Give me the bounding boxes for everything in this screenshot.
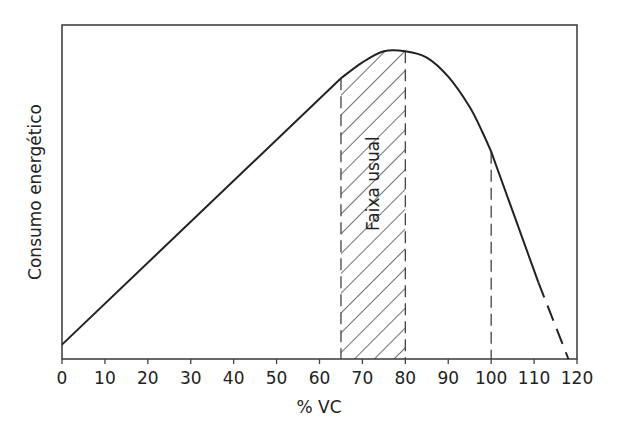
x-tick-label: 60 (309, 368, 331, 388)
x-tick-label: 0 (57, 368, 68, 388)
plot-frame (62, 25, 577, 359)
x-tick-label: 110 (518, 368, 550, 388)
x-tick-label: 120 (561, 368, 593, 388)
x-axis-label: % VC (296, 397, 341, 417)
x-tick-label: 80 (395, 368, 417, 388)
x-tick-label: 10 (94, 368, 116, 388)
annotation-faixa-usual: Faixa usual (363, 136, 383, 231)
x-tick-label: 70 (352, 368, 374, 388)
series-line-dashed (538, 282, 568, 359)
x-tick-label: 100 (475, 368, 507, 388)
chart: 0102030405060708090100110120 % VC Consum… (0, 0, 621, 436)
y-axis-label: Consumo energético (25, 104, 45, 280)
x-tick-label: 30 (180, 368, 202, 388)
x-tick-label: 90 (437, 368, 459, 388)
x-tick-label: 40 (223, 368, 245, 388)
x-tick-label: 50 (266, 368, 288, 388)
x-tick-label: 20 (137, 368, 159, 388)
series-line-solid (62, 50, 538, 345)
